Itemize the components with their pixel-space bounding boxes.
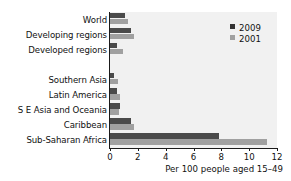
category-label: S E Asia and Oceania [18,105,107,115]
bar-2009 [110,133,219,138]
bar-2009 [110,118,131,123]
category-label: Developing regions [26,30,107,40]
x-tick-label: 12 [272,152,283,162]
bar-2001 [110,49,123,54]
x-tick-label: 0 [107,152,112,162]
bar-2009 [110,103,120,108]
category-label: Southern Asia [48,75,107,85]
category-label: World [83,15,107,25]
bar-2001 [110,34,134,39]
x-tick-label: 2 [135,152,140,162]
chart-legend: 20092001 [230,17,261,39]
bar-2001 [110,124,134,129]
category-label: Sub-Saharan Africa [26,135,107,145]
bar-2001 [110,19,128,24]
x-tick-mark [277,148,278,151]
x-tick-label: 6 [191,152,196,162]
x-tick-mark [138,148,139,151]
chart-row: Sub-Saharan Africa [0,133,291,148]
x-tick-label: 4 [163,152,168,162]
bar-2001 [110,79,118,84]
legend-item: 2009 [230,17,261,28]
category-label: Latin America [49,90,107,100]
chart-row: Southern Asia [0,72,291,87]
chart-row: S E Asia and Oceania [0,103,291,118]
legend-swatch-icon [230,35,235,40]
x-tick-mark [110,148,111,151]
x-tick-label: 8 [219,152,224,162]
bar-2009 [110,88,117,93]
x-tick-label: 10 [244,152,255,162]
x-axis-title: Per 100 people aged 15–49 [0,164,283,174]
chart-row-spacer [0,57,291,72]
x-tick-mark [194,148,195,151]
category-label: Caribbean [64,120,107,130]
chart-row: Developed regions [0,42,291,57]
bar-2009 [110,13,125,18]
bar-chart: WorldDeveloping regionsDeveloped regions… [0,0,291,181]
x-tick-mark [221,148,222,151]
chart-row: Latin America [0,88,291,103]
bar-2001 [110,94,120,99]
bar-2001 [110,109,119,114]
x-tick-mark [166,148,167,151]
bar-2009 [110,43,117,48]
x-tick-mark [249,148,250,151]
category-label: Developed regions [28,45,107,55]
bar-2009 [110,28,131,33]
legend-item: 2001 [230,28,261,39]
chart-row: Caribbean [0,118,291,133]
bar-2009 [110,73,114,78]
legend-label: 2001 [239,34,261,44]
bar-2001 [110,139,267,144]
